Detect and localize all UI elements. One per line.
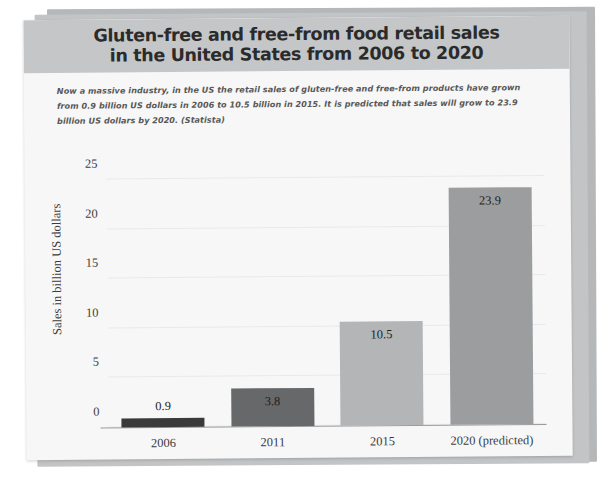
plot-wrapper: Sales in billion US dollars 0510152025 0…: [24, 136, 572, 460]
x-tick-label: 2020 (predicted): [437, 433, 547, 449]
bar-value-label: 23.9: [448, 193, 531, 209]
bar[interactable]: 10.5: [340, 321, 424, 426]
bar-group: 0.92006: [107, 179, 218, 428]
y-tick-label: 10: [86, 306, 99, 321]
y-tick-label: 15: [86, 256, 99, 271]
chart-subtitle: Now a massive industry, in the US the re…: [57, 80, 537, 129]
bar[interactable]: 23.9: [448, 187, 533, 425]
chart-card: Gluten-free and free-from food retail sa…: [23, 16, 572, 460]
title-band: Gluten-free and free-from food retail sa…: [23, 16, 569, 73]
bar-value-label: 0.9: [121, 399, 204, 415]
plot-area: 0510152025 0.920063.8201110.5201523.9202…: [107, 176, 547, 427]
y-tick-label: 5: [93, 355, 99, 370]
y-tick-label: 0: [93, 405, 99, 420]
y-tick-label: 20: [85, 206, 98, 221]
y-tick-label: 25: [85, 157, 98, 172]
x-tick-label: 2006: [109, 436, 219, 452]
bar-value-label: 3.8: [231, 394, 314, 410]
y-axis-title: Sales in billion US dollars: [49, 149, 66, 389]
bar-series: 0.920063.8201110.5201523.92020 (predicte…: [107, 176, 547, 427]
bar-group: 23.92020 (predicted): [435, 176, 546, 425]
x-tick-label: 2015: [328, 434, 438, 450]
x-tick-label: 2011: [218, 435, 328, 451]
bar[interactable]: 0.9: [122, 418, 205, 428]
bar-group: 10.52015: [326, 177, 437, 426]
bar-group: 3.82011: [216, 178, 327, 427]
bar[interactable]: 3.8: [231, 388, 315, 426]
page-title: Gluten-free and free-from food retail sa…: [93, 23, 499, 66]
bar-value-label: 10.5: [340, 327, 423, 343]
